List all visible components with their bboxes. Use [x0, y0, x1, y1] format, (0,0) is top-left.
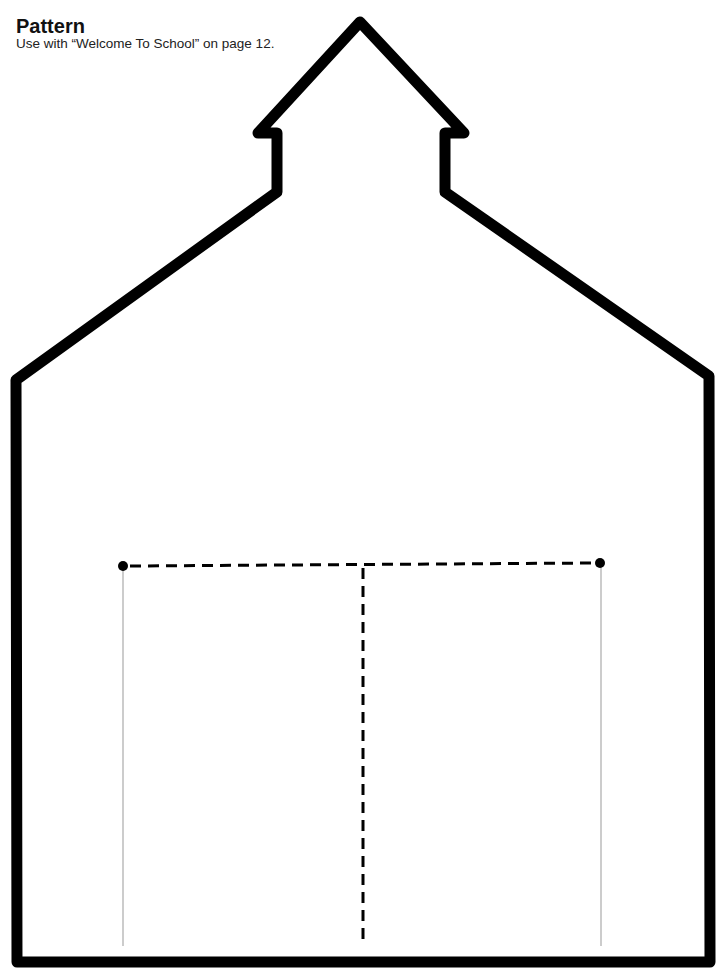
door-left-dot	[118, 561, 128, 571]
door-top-fold-line	[130, 563, 594, 566]
schoolhouse-pattern	[0, 0, 725, 975]
door-right-dot	[595, 558, 605, 568]
